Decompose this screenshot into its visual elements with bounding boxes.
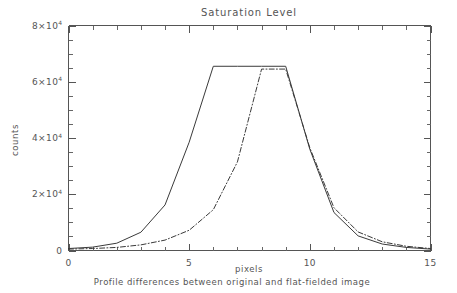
chart-svg: Saturation Level 05101502×1044×1046×1048… bbox=[0, 0, 457, 293]
y-axis-label: counts bbox=[10, 124, 20, 156]
y-tick-label: 2×104 bbox=[32, 188, 63, 200]
y-tick-label: 0 bbox=[56, 246, 62, 256]
x-axis-label: pixels bbox=[235, 264, 263, 274]
x-tick-label: 0 bbox=[65, 258, 71, 268]
x-tick-label: 10 bbox=[304, 258, 316, 268]
y-tick-label: 8×104 bbox=[32, 19, 63, 31]
x-tick-label: 5 bbox=[186, 258, 192, 268]
y-tick-label: 4×104 bbox=[32, 132, 63, 144]
saturation-level-chart-figure: Saturation Level 05101502×1044×1046×1048… bbox=[0, 0, 457, 293]
y-tick-label: 6×104 bbox=[32, 75, 63, 87]
chart-subtitle: Profile differences between original and… bbox=[94, 277, 370, 287]
chart-title: Saturation Level bbox=[201, 7, 297, 18]
x-tick-label: 15 bbox=[424, 258, 436, 268]
